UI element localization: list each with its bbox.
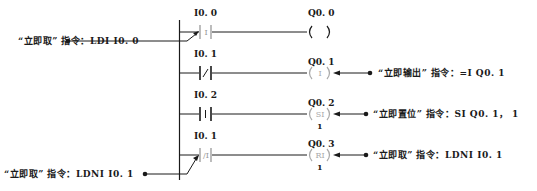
coil-count: 1 [317, 163, 323, 172]
annotation-ldni: “立即取” 指令：LDNI I0. 1 [4, 169, 134, 179]
contact-address-label: I0. 1 [194, 49, 217, 59]
coil-symbol: RI [310, 151, 330, 160]
contact-address-label: I0. 0 [194, 8, 217, 18]
annotation-output-immediate: “立即输出” 指令：=I Q0. 1 [378, 68, 505, 78]
coil-address-label: Q0. 2 [308, 98, 335, 108]
contact-address-label: I0. 1 [194, 131, 217, 141]
rung-4 [143, 148, 369, 176]
rung-3 [179, 107, 368, 121]
coil-address-label: Q0. 3 [308, 139, 335, 149]
annotation-set-immediate: “立即置位” 指令：SI Q0. 1， 1 [373, 109, 519, 119]
coil-symbol: SI [310, 110, 330, 119]
annotation-reset-immediate: “立即取” 指令：LDNI I0. 1 [373, 150, 503, 160]
contact-symbol: /I [196, 151, 216, 160]
annotation-ldi: “立即取” 指令：LDI I0. 0 [18, 36, 139, 46]
coil-count: 1 [317, 122, 323, 131]
coil-address-label: Q0. 0 [308, 8, 335, 18]
contact-address-label: I0. 2 [194, 90, 217, 100]
rung-2 [179, 66, 372, 80]
ladder-wiring [0, 0, 537, 191]
contact-symbol: I [196, 28, 216, 37]
coil-address-label: Q0. 1 [308, 57, 335, 67]
coil-symbol: I [310, 69, 330, 78]
